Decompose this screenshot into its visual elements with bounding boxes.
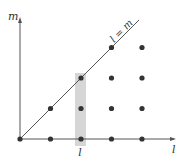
lattice-point [109,106,114,111]
diagonal-label: l = m [108,17,135,44]
lattice-point [48,106,53,111]
lattice-point [109,75,114,80]
lattice-point [139,75,144,80]
lattice-point [78,75,83,80]
lattice-point [48,136,53,141]
x-axis-label: l [172,143,176,156]
lattice-point [109,45,114,50]
lattice-point [109,136,114,141]
lattice-point [78,106,83,111]
x-axis-arrow-icon [170,137,176,141]
lattice-point [139,45,144,50]
lattice-diagram: m l l l = m [0,0,186,161]
lattice-point [139,136,144,141]
lattice-point [139,106,144,111]
column-label: l [78,146,82,159]
lattice-point [78,136,83,141]
y-axis-label: m [8,10,18,23]
y-axis-arrow-icon [18,17,22,23]
lattice-point [17,136,22,141]
